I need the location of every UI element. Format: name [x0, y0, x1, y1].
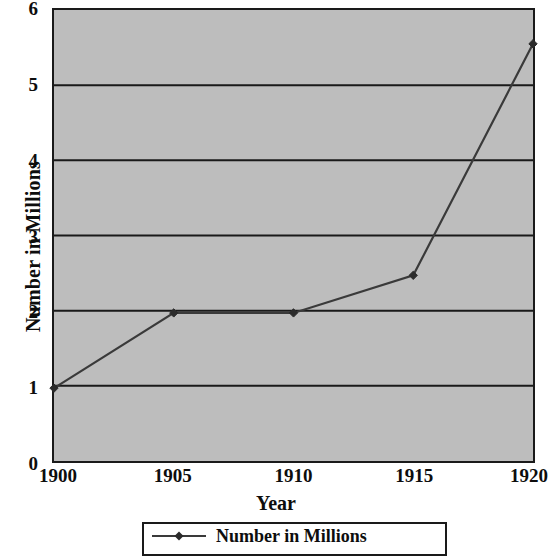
x-axis-tick-label: 1910	[275, 466, 313, 485]
y-axis-tick-labels: 0123456	[0, 0, 46, 536]
legend: Number in Millions	[142, 522, 447, 556]
legend-item: Number in Millions	[150, 527, 367, 545]
y-axis-tick-label: 1	[29, 378, 39, 397]
y-axis-tick-label: 6	[29, 0, 39, 18]
series-line	[54, 44, 533, 388]
y-axis-tick-label: 3	[29, 226, 39, 245]
legend-item-label: Number in Millions	[216, 527, 367, 545]
data-point-marker	[289, 309, 297, 317]
y-axis-tick-label: 2	[29, 302, 39, 321]
data-point-marker	[529, 40, 537, 48]
x-axis-tick-label: 1915	[395, 466, 433, 485]
legend-marker-icon	[150, 527, 208, 545]
y-axis-tick-label: 5	[29, 74, 39, 93]
x-axis-title: Year	[0, 492, 552, 515]
plot-area	[52, 8, 535, 463]
data-series-line	[54, 10, 533, 461]
x-axis-tick-label: 1905	[154, 466, 192, 485]
x-axis-tick-label: 1920	[510, 466, 548, 485]
x-axis-tick-label: 1900	[39, 466, 77, 485]
y-axis-tick-label: 4	[29, 150, 39, 169]
x-axis-tick-labels: 19001905191019151920	[0, 466, 552, 492]
data-point-marker	[409, 271, 417, 279]
